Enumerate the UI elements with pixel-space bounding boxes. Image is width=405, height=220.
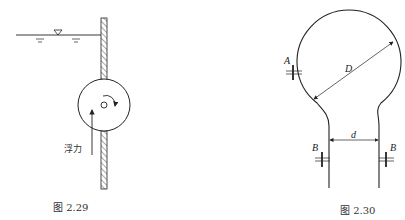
section-B-right-marker: B (379, 142, 396, 167)
label-D: D (344, 63, 353, 74)
figure-caption-2-30: 图 2.30 (340, 205, 375, 216)
label-B-right: B (390, 142, 396, 153)
vertical-wall-upper (101, 18, 107, 80)
label-A: A (283, 55, 291, 66)
label-d: d (351, 129, 357, 140)
pivot-axis-icon (101, 102, 107, 108)
figure-caption-2-29: 图 2.29 (53, 202, 88, 213)
section-B-left-marker: B (312, 142, 330, 167)
vertical-wall-lower (101, 131, 107, 189)
diagram-canvas: 浮力 图 2.29 D d A B B (0, 0, 405, 220)
figure-2-29: 浮力 图 2.29 (16, 18, 130, 213)
label-B-left: B (312, 142, 318, 153)
buoyancy-label: 浮力 (64, 143, 82, 154)
diameter-D-dimension (314, 42, 393, 99)
free-surface-symbol (54, 30, 62, 35)
figure-2-30: D d A B B 图 2.30 (283, 10, 401, 216)
